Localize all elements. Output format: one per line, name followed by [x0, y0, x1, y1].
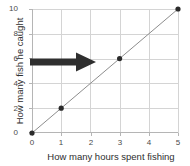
- x-tick-label-1: 1: [53, 139, 69, 147]
- x-axis-title: How many hours spent fishing: [32, 150, 190, 163]
- x-tick-mark-1: [61, 133, 62, 136]
- y-axis-title: How many fish he caught: [13, 1, 26, 141]
- y-tick-label-10: 10: [6, 5, 18, 13]
- y-tick-label-8: 8: [6, 30, 18, 38]
- gridline-x-5: [178, 9, 179, 133]
- series-marker-3-6: [117, 56, 122, 61]
- series-marker-1-2: [59, 106, 64, 111]
- x-tick-label-2: 2: [83, 139, 99, 147]
- x-tick-label-0: 0: [24, 139, 40, 147]
- x-tick-mark-5: [178, 133, 179, 136]
- plot-area: [32, 9, 178, 133]
- chart-figure: How many fish he caught 10 8 6 4 2 0 0 1…: [0, 0, 190, 166]
- series-marker-5-10: [175, 6, 180, 11]
- y-tick-label-0: 0: [6, 129, 18, 137]
- x-tick-mark-2: [91, 133, 92, 136]
- y-tick-label-4: 4: [6, 80, 18, 88]
- annotation-arrow-icon: [30, 52, 96, 72]
- x-tick-label-3: 3: [112, 139, 128, 147]
- arrow-right-shape: [30, 53, 96, 72]
- y-tick-label-2: 2: [6, 105, 18, 113]
- x-tick-mark-4: [149, 133, 150, 136]
- x-tick-mark-3: [120, 133, 121, 136]
- series-marker-0-0: [29, 130, 34, 135]
- x-tick-label-4: 4: [141, 139, 157, 147]
- y-tick-label-6: 6: [6, 55, 18, 63]
- x-tick-label-5: 5: [170, 139, 186, 147]
